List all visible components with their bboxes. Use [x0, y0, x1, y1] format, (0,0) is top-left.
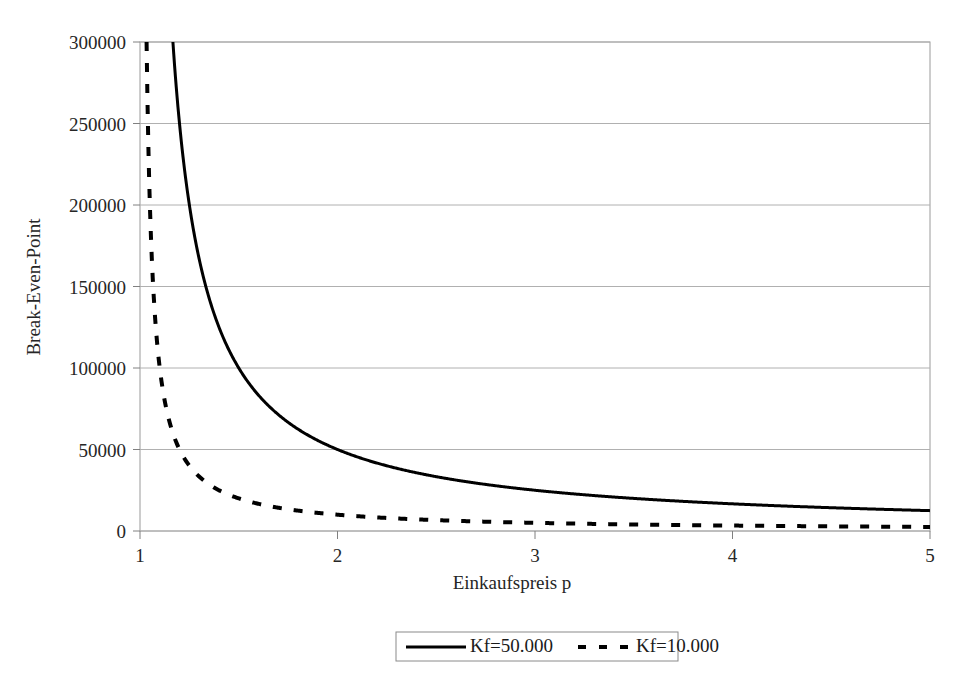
x-axis-tick-label: 4: [728, 545, 738, 566]
legend-label-kf-50000: Kf=50.000: [470, 635, 553, 656]
x-axis-title: Einkaufspreis p: [453, 572, 572, 593]
chart-svg: 050000100000150000200000250000300000 123…: [0, 0, 972, 700]
break-even-chart: 050000100000150000200000250000300000 123…: [0, 0, 972, 700]
x-axis-tick-label: 2: [333, 545, 343, 566]
y-axis-tick-label: 100000: [69, 358, 126, 379]
x-axis-tick-label: 5: [925, 545, 935, 566]
y-axis-tick-label: 250000: [69, 114, 126, 135]
y-axis-title: Break-Even-Point: [23, 218, 44, 356]
y-axis-tick-label: 300000: [69, 32, 126, 53]
y-axis-tick-label: 0: [117, 521, 127, 542]
x-axis-tick-label: 1: [135, 545, 145, 566]
y-axis-tick-label: 150000: [69, 277, 126, 298]
legend: Kf=50.000 Kf=10.000: [396, 632, 719, 661]
legend-label-kf-10000: Kf=10.000: [636, 635, 719, 656]
y-axis-tick-label: 200000: [69, 195, 126, 216]
x-axis-tick-label: 3: [530, 545, 540, 566]
y-axis-tick-label: 50000: [79, 440, 127, 461]
